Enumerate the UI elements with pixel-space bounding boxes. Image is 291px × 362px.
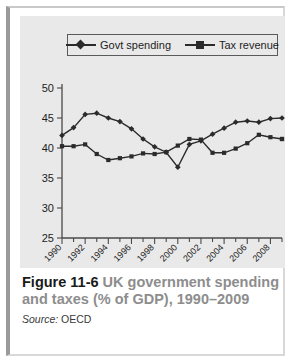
svg-text:1998: 1998 bbox=[135, 242, 156, 263]
svg-text:2008: 2008 bbox=[251, 242, 272, 263]
svg-text:25: 25 bbox=[42, 232, 54, 244]
y-axis-ticks: 253035404550 bbox=[42, 82, 62, 244]
svg-text:1996: 1996 bbox=[112, 242, 133, 263]
caption-title: Figure 11-6 UK government spending and t… bbox=[22, 274, 284, 308]
series-line-tax-revenue bbox=[62, 135, 282, 160]
svg-text:2006: 2006 bbox=[227, 242, 248, 263]
svg-text:2002: 2002 bbox=[181, 242, 202, 263]
line-chart: 253035404550 199019921994199619982000200… bbox=[20, 16, 285, 268]
svg-text:2000: 2000 bbox=[158, 242, 179, 263]
svg-text:30: 30 bbox=[42, 202, 54, 214]
svg-text:35: 35 bbox=[42, 172, 54, 184]
chart-panel: Govt spending Tax revenue 253035404550 1… bbox=[20, 16, 285, 268]
series-markers-tax-revenue bbox=[60, 133, 284, 162]
x-axis-ticks: 1990199219941996199820002002200420062008 bbox=[42, 238, 282, 264]
svg-text:45: 45 bbox=[42, 112, 54, 124]
caption: Figure 11-6 UK government spending and t… bbox=[22, 274, 284, 325]
svg-text:40: 40 bbox=[42, 142, 54, 154]
source-label: Source: bbox=[22, 313, 58, 325]
figure-number: Figure 11-6 bbox=[22, 274, 99, 290]
svg-text:2004: 2004 bbox=[204, 242, 225, 263]
source-value: OECD bbox=[58, 313, 91, 325]
caption-source: Source: OECD bbox=[22, 313, 284, 325]
svg-text:1992: 1992 bbox=[65, 242, 86, 263]
figure-frame: Govt spending Tax revenue 253035404550 1… bbox=[6, 6, 285, 356]
svg-text:50: 50 bbox=[42, 82, 54, 94]
svg-text:1994: 1994 bbox=[88, 242, 109, 263]
figure-container: Govt spending Tax revenue 253035404550 1… bbox=[0, 0, 291, 362]
svg-text:1990: 1990 bbox=[42, 242, 63, 263]
